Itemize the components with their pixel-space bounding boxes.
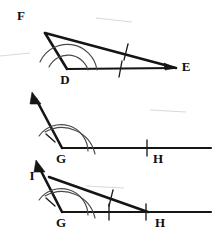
panel-completed-triangle: I G H [29,160,211,230]
panel-copied-angle: G H [30,92,211,166]
compass-tick-G [46,134,55,142]
vertex-label-D: D [60,72,69,87]
ray-arrowhead-I [34,160,45,172]
vertex-label-F: F [17,8,25,23]
segment-DE [67,68,176,69]
angle-arc-D-inner [49,55,88,70]
geometry-figure: F D E G H [0,0,220,240]
vertex-label-G-middle: G [56,151,66,166]
ray-arrowhead-upward [30,92,41,104]
tick-mark-FE [124,44,128,60]
compass-tick-G-bottom [46,198,55,206]
vertex-label-E: E [182,59,191,74]
vertex-label-H-middle: H [153,151,163,166]
geometry-canvas: F D E G H [0,0,220,240]
segment-IH [49,177,148,212]
angle-arc-D-outer [40,44,97,70]
vertex-label-H-bottom: H [155,215,165,230]
panel-given-triangle: F D E [17,8,190,87]
vertex-label-G-bottom: G [56,215,66,230]
ray-G-upward [36,99,62,148]
ray-G-through-I [39,167,62,212]
vertex-label-I: I [29,168,34,183]
